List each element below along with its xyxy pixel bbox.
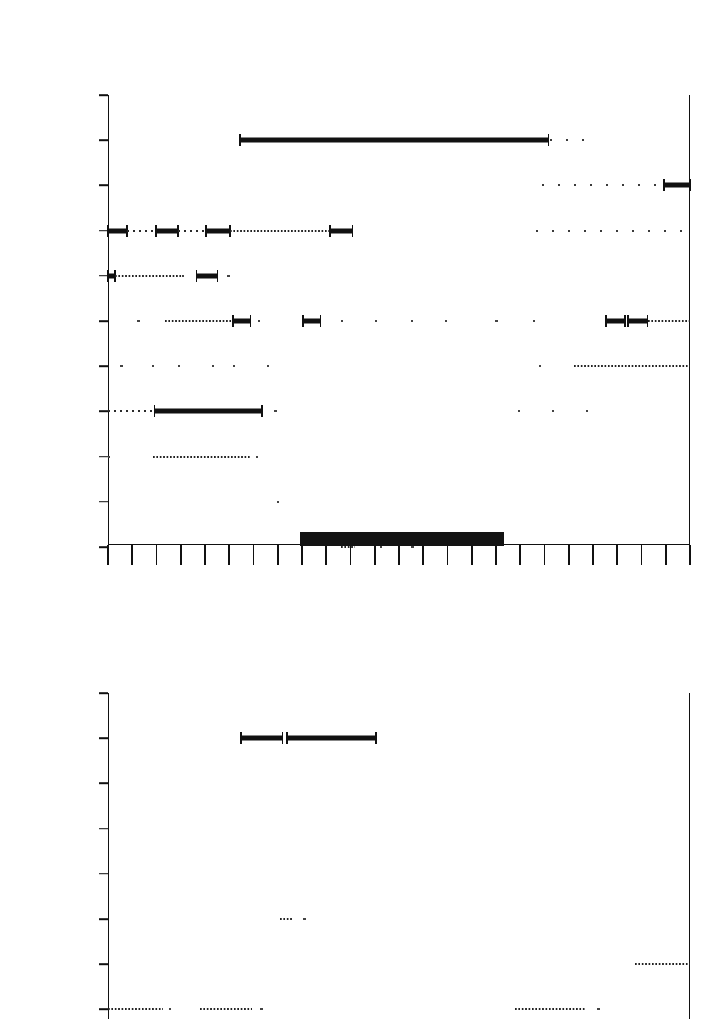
activity-dots xyxy=(518,410,588,412)
x-axis-tick xyxy=(107,545,109,565)
activity-dots xyxy=(597,1008,614,1010)
activity-bar-cap xyxy=(240,732,242,744)
activity-dots xyxy=(542,184,682,186)
activity-dots xyxy=(648,320,690,322)
activity-dots xyxy=(303,918,312,920)
x-axis-tick xyxy=(592,545,594,565)
x-axis-tick xyxy=(689,545,691,565)
activity-bar xyxy=(240,138,548,143)
activity-bar-cap xyxy=(627,315,629,327)
activity-dots xyxy=(152,365,167,367)
activity-dots xyxy=(178,230,206,232)
activity-bar-cap xyxy=(107,225,109,237)
activity-dots xyxy=(182,275,196,277)
activity-dots xyxy=(274,410,300,412)
x-axis-tick xyxy=(422,545,424,565)
activity-bar-cap xyxy=(320,315,322,327)
activity-bar xyxy=(206,228,230,233)
activity-dots xyxy=(153,456,250,458)
x-axis-tick xyxy=(568,545,570,565)
x-axis-tick xyxy=(398,545,400,565)
activity-bar-cap xyxy=(107,270,109,282)
y-axis-tick xyxy=(99,737,108,739)
y-axis-tick xyxy=(99,783,108,785)
activity-bar-cap xyxy=(624,315,626,327)
x-axis-tick xyxy=(131,545,133,565)
activity-bar-cap xyxy=(232,315,234,327)
activity-bar-cap xyxy=(286,732,288,744)
activity-dots xyxy=(536,230,690,232)
activity-dots xyxy=(260,1008,269,1010)
y-axis-tick xyxy=(99,365,108,367)
activity-bar-cap xyxy=(548,134,550,146)
activity-bar-cap xyxy=(217,270,219,282)
night-band xyxy=(300,532,504,546)
activity-bar xyxy=(287,736,375,741)
y-axis-tick xyxy=(99,1009,108,1011)
activity-dots xyxy=(108,410,152,412)
activity-dots xyxy=(515,1008,585,1010)
x-axis-tick xyxy=(180,545,182,565)
x-axis-tick xyxy=(447,545,449,565)
y-axis-tick xyxy=(99,185,108,187)
activity-dots xyxy=(280,918,293,920)
plot-frame xyxy=(108,693,690,1019)
activity-dots xyxy=(233,365,294,367)
activity-dots xyxy=(533,320,550,322)
x-axis-tick xyxy=(665,545,667,565)
activity-bar-cap xyxy=(196,270,198,282)
activity-dots xyxy=(258,320,270,322)
actogram-panel-2 xyxy=(0,625,721,1019)
activity-bar-cap xyxy=(302,315,304,327)
x-axis-tick xyxy=(641,545,643,565)
activity-dots xyxy=(127,230,156,232)
activity-dots xyxy=(108,1008,163,1010)
y-axis-tick xyxy=(99,963,108,965)
activity-bar xyxy=(303,319,320,324)
x-axis-tick xyxy=(156,545,158,565)
y-axis-tick xyxy=(99,828,108,830)
x-axis-tick xyxy=(350,545,352,565)
x-axis-tick xyxy=(204,545,206,565)
y-axis-tick xyxy=(99,411,108,413)
activity-dots xyxy=(341,546,356,548)
y-axis-tick xyxy=(99,873,108,875)
activity-bar-cap xyxy=(154,405,156,417)
activity-dots xyxy=(165,320,233,322)
activity-bar-cap xyxy=(375,732,377,744)
y-axis-tick xyxy=(99,692,108,694)
x-axis-tick xyxy=(544,545,546,565)
x-axis-tick xyxy=(228,545,230,565)
activity-bar xyxy=(156,228,178,233)
x-axis-tick xyxy=(616,545,618,565)
activity-dots xyxy=(635,963,690,965)
activity-bar xyxy=(628,319,648,324)
x-axis-tick xyxy=(495,545,497,565)
activity-bar-cap xyxy=(261,405,263,417)
activity-bar xyxy=(606,319,625,324)
activity-dots xyxy=(539,365,554,367)
activity-dots xyxy=(256,456,268,458)
activity-dots xyxy=(178,365,216,367)
activity-bar-cap xyxy=(282,732,284,744)
activity-bar xyxy=(241,736,283,741)
activity-bar-cap xyxy=(329,225,331,237)
activity-dots xyxy=(341,320,382,322)
y-axis-tick xyxy=(99,456,108,458)
activity-bar xyxy=(664,183,690,188)
x-axis-tick xyxy=(519,545,521,565)
activity-dots xyxy=(411,546,427,548)
activity-bar-cap xyxy=(239,134,241,146)
activity-dots xyxy=(115,275,183,277)
activity-dots xyxy=(277,501,290,503)
x-axis-tick xyxy=(374,545,376,565)
x-axis-tick xyxy=(325,545,327,565)
activity-bar xyxy=(233,319,250,324)
y-axis-tick xyxy=(99,501,108,503)
activity-bar xyxy=(196,273,217,278)
activity-dots xyxy=(227,275,259,277)
activity-dots xyxy=(411,320,469,322)
x-axis-tick xyxy=(253,545,255,565)
activity-bar xyxy=(155,409,263,414)
x-axis-tick xyxy=(277,545,279,565)
